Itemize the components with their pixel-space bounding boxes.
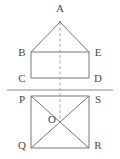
segment-a-b [31,22,60,52]
geometry-figure: A B E C D P S O Q R [0,0,120,159]
vertex-label-p: P [19,94,25,105]
vertex-label-q: Q [18,140,26,151]
vertex-label-r: R [94,140,101,151]
vertex-marker-o [59,121,61,123]
vertex-marker-a [59,21,61,23]
segment-a-e [60,22,89,52]
vertex-label-c: C [18,73,25,84]
vertex-label-d: D [94,73,102,84]
vertex-label-e: E [95,47,102,58]
vertex-label-b: B [18,47,25,58]
vertex-label-a: A [56,3,64,14]
vertex-label-s: S [95,94,101,105]
vertex-label-o: O [48,114,56,125]
